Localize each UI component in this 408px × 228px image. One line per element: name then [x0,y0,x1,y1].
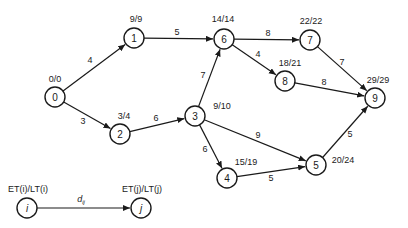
arrow-line [234,39,299,40]
edge-duration-label: 9 [255,130,260,140]
edge-3-4: 6 [200,125,222,168]
edge-duration-label: 7 [339,57,344,67]
node-5: 520/24 [306,155,354,175]
node-times-label: 14/14 [212,14,235,24]
legend-duration-label: dij [77,194,85,205]
node-6: 614/14 [212,14,235,49]
arrow-line [323,106,368,157]
edge-0-2: 3 [64,102,111,129]
edge-duration-label: 6 [202,144,207,154]
arrow-line [232,45,276,75]
node-times-label: 9/10 [213,101,231,111]
node-8: 818/21 [275,58,301,91]
arrow-line [204,120,306,161]
arrow-line [144,38,213,39]
nodes-layer: 00/019/923/439/10415/19520/24614/14722/2… [45,14,389,188]
node-id-label: 9 [372,93,378,104]
edge-duration-label: 5 [347,129,352,139]
arrow-line [295,83,364,96]
node-times-label: 15/19 [235,157,258,167]
node-9: 929/29 [365,75,389,108]
node-id-label: 8 [282,76,288,87]
node-7: 722/22 [300,16,323,50]
edge-duration-label: 5 [174,27,179,37]
edge-2-3: 6 [130,113,185,132]
node-id-label: 2 [117,129,123,140]
legend-node-i: iET(i)/LT(i) [8,184,48,218]
node-times-label: 29/29 [367,75,390,85]
legend-times-label: ET(i)/LT(i) [8,184,48,194]
edge-duration-label: 5 [268,173,273,183]
edge-duration-label: 6 [153,113,158,123]
node-id-label: 6 [221,34,227,45]
node-times-label: 22/22 [300,16,323,26]
edge-duration-label: 4 [255,49,260,59]
edge-4-5: 5 [237,167,305,183]
edge-duration-label: 8 [321,77,326,87]
edge-3-6: 7 [199,49,221,106]
node-times-label: 3/4 [118,111,131,121]
node-id-label: 4 [224,173,230,184]
edge-3-5: 9 [204,120,306,161]
edge-0-1: 4 [63,45,125,91]
node-3: 39/10 [185,101,231,126]
legend-node-j: jET(j)/LT(j) [122,184,162,218]
node-id-label: 5 [313,160,319,171]
edge-duration-label: 7 [200,70,205,80]
node-id-label: 0 [52,92,58,103]
edge-1-6: 5 [144,27,213,39]
node-4: 415/19 [217,157,257,188]
node-times-label: 18/21 [279,58,302,68]
node-1: 19/9 [124,14,144,48]
arrow-line [63,45,125,91]
node-id-label: 7 [307,35,313,46]
node-times-label: 0/0 [49,74,62,84]
arrow-line [64,102,111,129]
activity-network-diagram: 4356769584785 00/019/923/439/10415/19520… [0,0,408,228]
edge-5-9: 5 [323,106,368,157]
edge-duration-label: 3 [80,116,85,126]
node-times-label: 9/9 [130,14,143,24]
legend: iET(i)/LT(i)jET(j)/LT(j)dij [8,184,162,218]
node-id-label: 3 [192,111,198,122]
edge-duration-label: 4 [87,55,92,65]
node-times-label: 20/24 [332,155,355,165]
node-0: 00/0 [45,74,65,107]
node-2: 23/4 [110,111,130,144]
node-id-label: 1 [131,33,137,44]
edge-6-8: 4 [232,45,276,75]
legend-times-label: ET(j)/LT(j) [122,184,162,194]
edge-6-7: 8 [234,28,299,40]
edge-duration-label: 8 [265,28,270,38]
